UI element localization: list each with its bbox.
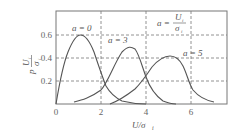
x-axis-label-sub: i — [152, 125, 154, 131]
y-tick-0.6: 0.6 — [41, 30, 53, 40]
y-axis-label: p U i σ i — [21, 55, 42, 75]
curves — [56, 35, 214, 104]
x-tick-0: 0 — [54, 107, 59, 117]
formula-num-sub: i — [182, 18, 184, 23]
y-axis-label-prefix: p — [26, 69, 36, 75]
formula-den: σ — [175, 23, 180, 33]
y-tick-0.2: 0.2 — [41, 76, 52, 86]
series-label-a3: a = 3 — [108, 35, 128, 45]
formula-lhs: a = — [157, 18, 170, 28]
y-axis-label-den: σ — [31, 61, 41, 66]
formula-num: U — [175, 12, 182, 22]
x-tick-4: 4 — [144, 107, 149, 117]
curve-a5 — [110, 56, 214, 104]
x-tick-6: 6 — [189, 107, 194, 117]
curve-a3 — [74, 47, 176, 104]
y-tick-0.4: 0.4 — [41, 53, 53, 63]
chart: 0.6 0.4 0.2 0 2 4 6 U/σ i p U i σ i a = … — [0, 0, 242, 140]
x-axis-label: U/σ i — [132, 120, 154, 131]
formula-annotation: a = U i σ i — [157, 12, 186, 34]
series-label-a0: a = 0 — [72, 23, 92, 33]
series-label-a5: a = 5 — [183, 48, 203, 58]
formula-den-sub: i — [181, 29, 183, 34]
x-tick-2: 2 — [99, 107, 104, 117]
x-axis-label-text: U/σ — [132, 120, 146, 130]
y-axis-label-num: U — [21, 59, 31, 66]
